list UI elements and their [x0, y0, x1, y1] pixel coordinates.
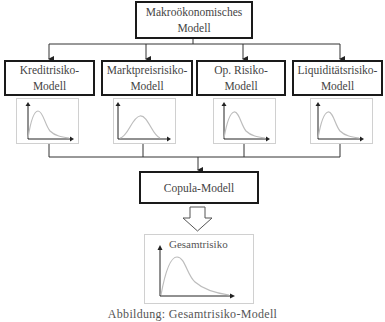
box-label-line1: Op. Risiko- [214, 62, 268, 78]
aggregate-risk-title: Gesamtrisiko [169, 238, 228, 250]
operational-risk-distribution-chart [213, 98, 276, 144]
box-label-line2: Modell [298, 78, 378, 94]
macro-model-box: Makroökonomisches Modell [135, 1, 253, 39]
operational-risk-model-box: Op. Risiko- Modell [196, 60, 286, 96]
credit-risk-distribution-chart [16, 98, 79, 144]
box-label-line2: Modell [214, 78, 268, 94]
skewed-density-icon [17, 99, 80, 145]
skewed-density-icon [214, 99, 277, 145]
aggregate-risk-distribution-chart: Gesamtrisiko [144, 234, 254, 304]
box-label-line1: Liquiditätsrisiko- [298, 62, 378, 78]
market-risk-model-box: Marktpreisrisiko- Modell [101, 60, 193, 96]
liquidity-risk-model-box: Liquiditätsrisiko- Modell [292, 60, 383, 96]
box-label-line2: Modell [107, 78, 187, 94]
macro-model-label-line2: Modell [146, 20, 242, 36]
liquidity-risk-distribution-chart [310, 98, 373, 144]
macro-model-label-line1: Makroökonomisches [146, 4, 242, 20]
box-label-line1: Kreditrisiko- [20, 62, 79, 78]
symmetric-density-icon [114, 99, 177, 145]
box-label-line1: Marktpreisrisiko- [107, 62, 187, 78]
credit-risk-model-box: Kreditrisiko- Modell [4, 60, 95, 96]
hollow-down-arrow [183, 207, 212, 231]
skewed-density-icon [311, 99, 374, 145]
market-risk-distribution-chart [113, 98, 176, 144]
copula-model-label: Copula-Modell [164, 180, 234, 196]
figure-caption: Abbildung: Gesamtrisiko-Modell [0, 307, 385, 322]
box-label-line2: Modell [20, 78, 79, 94]
copula-model-box: Copula-Modell [139, 171, 259, 204]
